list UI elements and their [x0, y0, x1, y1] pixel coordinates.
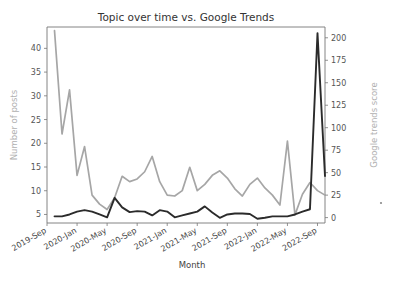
y-left-tick-label-2: 15: [31, 163, 41, 172]
chart-title: Topic over time vs. Google Trends: [97, 11, 275, 23]
y-left-tick-label-3: 20: [31, 139, 41, 148]
y-left-tick-label-5: 30: [31, 92, 41, 101]
y-left-tick-label-0: 5: [36, 210, 41, 219]
y-right-tick-label-3: 75: [331, 146, 341, 155]
y-left-tick-label-6: 35: [31, 68, 41, 77]
y-right-tick-label-8: 200: [331, 34, 346, 43]
y-right-tick-label-2: 50: [331, 169, 341, 178]
y-left-tick-label-4: 25: [31, 116, 41, 125]
figure-canvas: Topic over time vs. Google Trends 510152…: [0, 0, 396, 281]
topic-over-time-chart: Topic over time vs. Google Trends 510152…: [0, 0, 396, 281]
y-left-tick-label-7: 40: [31, 44, 41, 53]
stray-marker-dot: [380, 202, 382, 204]
y-left-tick-label-1: 10: [31, 187, 41, 196]
x-axis-label: Month: [179, 260, 206, 270]
y-axis-left-label: Number of posts: [9, 89, 19, 160]
y-right-tick-label-6: 150: [331, 79, 346, 88]
y-axis-right-label: Google trends score: [369, 82, 379, 167]
y-right-tick-label-4: 100: [331, 124, 346, 133]
y-right-tick-label-7: 175: [331, 56, 346, 65]
y-right-tick-label-5: 125: [331, 101, 346, 110]
y-right-tick-label-1: 25: [331, 191, 341, 200]
y-right-tick-label-0: 0: [331, 214, 336, 223]
